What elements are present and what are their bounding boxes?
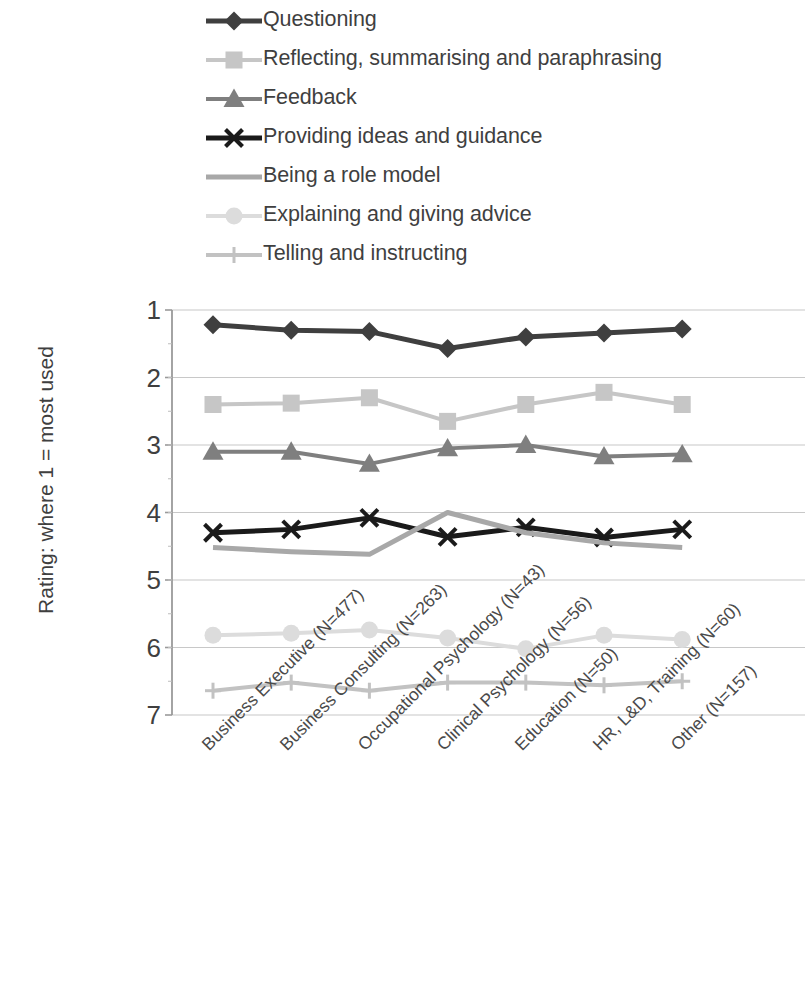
series-0 <box>204 315 692 358</box>
data-point-marker <box>282 321 301 340</box>
series-1 <box>205 384 691 430</box>
data-point-marker <box>596 384 613 401</box>
data-point-marker <box>595 323 614 342</box>
data-point-marker <box>361 683 377 699</box>
data-point-marker <box>516 328 535 347</box>
series-4 <box>213 513 682 555</box>
data-point-marker <box>438 339 457 358</box>
data-point-marker <box>361 389 378 406</box>
data-point-marker <box>673 319 692 338</box>
data-point-marker <box>204 315 223 334</box>
data-point-marker <box>596 627 613 644</box>
data-point-marker <box>205 396 222 413</box>
data-point-marker <box>283 395 300 412</box>
data-point-marker <box>361 621 378 638</box>
plot-svg <box>0 0 805 1005</box>
data-point-marker <box>205 683 221 699</box>
plot-area: Rating: where 1 = most used 1234567 Busi… <box>0 0 805 1005</box>
series-line <box>213 513 682 555</box>
data-point-marker <box>205 627 222 644</box>
series-2 <box>203 435 693 472</box>
data-point-marker <box>439 413 456 430</box>
data-point-marker <box>674 396 691 413</box>
chart-root: QuestioningReflecting, summarising and p… <box>0 0 805 1005</box>
data-point-marker <box>517 396 534 413</box>
data-point-marker <box>360 322 379 341</box>
